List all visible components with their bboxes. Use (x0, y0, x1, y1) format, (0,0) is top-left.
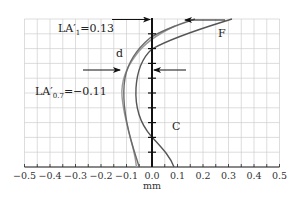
aberration-chart: LA′1=0.13 LA′0.7=−0.11 d F C −0.5−0.4−0.… (0, 0, 304, 200)
x-tick-label: −0.1 (115, 170, 138, 181)
x-tick-label: −0.2 (89, 170, 112, 181)
label-F: F (218, 27, 226, 40)
x-tick-label: −0.5 (13, 170, 36, 181)
label-d: d (116, 47, 123, 60)
x-tick-label: 0.3 (221, 170, 236, 181)
annotation-la07: LA′0.7=−0.11 (35, 85, 107, 100)
x-tick-label: −0.4 (38, 170, 61, 181)
annotation-la1: LA′1=0.13 (58, 22, 114, 37)
x-axis-label: mm (143, 180, 161, 191)
x-tick-label: 0.2 (195, 170, 210, 181)
x-tick-label: 0.4 (246, 170, 261, 181)
label-C: C (172, 120, 180, 133)
curve-d (122, 26, 175, 167)
x-tick-label: −0.3 (64, 170, 87, 181)
x-tick-label: 0.5 (272, 170, 287, 181)
x-tick-label: 0.1 (170, 170, 185, 181)
